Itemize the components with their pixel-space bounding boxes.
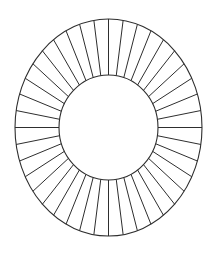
ring-spoke <box>157 111 200 120</box>
ring-spoke <box>33 64 69 97</box>
ring-spoke <box>116 179 123 234</box>
ring-spoke <box>149 64 185 97</box>
ring-spoke <box>149 158 185 191</box>
ring-spoke <box>25 151 64 176</box>
ring-spoke <box>144 165 175 205</box>
ring-spoke <box>16 136 59 145</box>
spokes-group <box>15 19 202 236</box>
ring-spoke <box>153 151 192 176</box>
ring-spoke <box>54 170 80 215</box>
ring-spoke <box>20 144 62 161</box>
inner-ellipse <box>59 75 158 180</box>
ring-spoke <box>156 144 198 161</box>
ring-spoke <box>116 20 123 75</box>
ring-spoke <box>144 51 175 91</box>
ring-spoke <box>25 78 64 103</box>
ring-spoke <box>153 78 192 103</box>
segmented-ring-diagram <box>0 0 218 260</box>
ring-spoke <box>20 94 62 111</box>
ring-spoke <box>42 51 73 91</box>
ring-spoke <box>138 40 164 85</box>
ring-spoke <box>156 94 198 111</box>
ring-spoke <box>16 111 59 120</box>
ring-spoke <box>33 158 69 191</box>
ring-spoke <box>157 136 200 145</box>
ring-spoke <box>54 40 80 85</box>
ring-spoke <box>42 165 73 205</box>
ring-spoke <box>94 20 101 75</box>
ring-spoke <box>138 170 164 215</box>
ring-spoke <box>94 179 101 234</box>
